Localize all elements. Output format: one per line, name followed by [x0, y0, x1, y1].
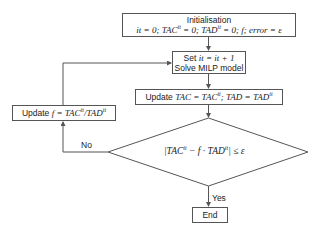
solve-line2: Solve MILP model: [175, 63, 244, 73]
end-label: End: [202, 210, 217, 220]
end-box: End: [192, 207, 228, 223]
update-tac-box: Update TAC = TACit; TAD = TADit: [135, 89, 283, 105]
init-formula: it = 0; TACit = 0; TADit = 0; f; error =…: [136, 25, 281, 35]
no-label: No: [81, 140, 92, 150]
init-box: Initialisation it = 0; TACit = 0; TADit …: [122, 13, 296, 37]
solve-line1: Set it = it + 1: [184, 53, 235, 63]
update-f-box: Update f = TACit/TADit: [12, 105, 116, 121]
init-title: Initialisation: [187, 15, 231, 25]
update-f-text: Update f = TACit/TADit: [22, 108, 106, 118]
yes-label: Yes: [212, 193, 226, 203]
update-tac-text: Update TAC = TACit; TAD = TADit: [145, 92, 272, 102]
decision-formula: |TACit − f · TADit| ≤ ε: [164, 146, 245, 156]
solve-box: Set it = it + 1 Solve MILP model: [172, 51, 246, 74]
